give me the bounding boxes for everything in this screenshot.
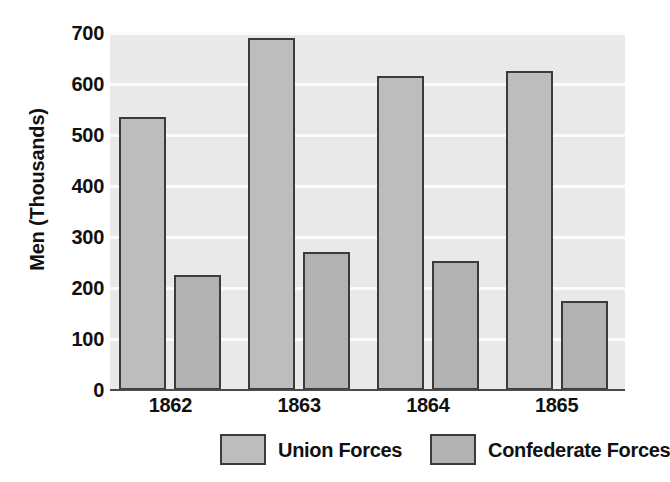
bar-1864-union — [377, 76, 424, 390]
y-tick-label: 700 — [0, 23, 104, 43]
x-axis-line — [110, 389, 625, 391]
bar-1862-confederate — [174, 275, 221, 390]
bar-1863-confederate — [303, 252, 350, 390]
bar-1863-union — [248, 38, 295, 390]
y-axis-tick-labels: 0100200300400500600700 — [0, 0, 104, 482]
legend-entry-union: Union Forces — [220, 434, 402, 465]
chart-legend: Union ForcesConfederate Forces — [110, 434, 625, 476]
legend-entry-confederate: Confederate Forces — [430, 434, 670, 465]
bar-1862-union — [119, 117, 166, 390]
y-tick-label: 500 — [0, 125, 104, 145]
legend-label: Union Forces — [278, 440, 402, 460]
x-tick-label-1863: 1863 — [277, 394, 320, 417]
gridline — [110, 32, 625, 35]
legend-label: Confederate Forces — [488, 440, 670, 460]
x-tick-label-1862: 1862 — [149, 394, 192, 417]
x-tick-label-1864: 1864 — [406, 394, 449, 417]
legend-swatch-icon — [430, 434, 476, 465]
bar-1865-union — [506, 71, 553, 390]
x-tick-label-1865: 1865 — [535, 394, 578, 417]
y-tick-label: 300 — [0, 227, 104, 247]
x-axis-tick-labels: 1862186318641865 — [110, 394, 625, 420]
plot-area — [110, 33, 625, 390]
y-tick-label: 200 — [0, 278, 104, 298]
legend-swatch-icon — [220, 434, 266, 465]
y-tick-label: 0 — [0, 380, 104, 400]
y-tick-label: 400 — [0, 176, 104, 196]
y-tick-label: 100 — [0, 329, 104, 349]
y-tick-label: 600 — [0, 74, 104, 94]
bar-1864-confederate — [432, 261, 479, 390]
bar-1865-confederate — [561, 301, 608, 390]
